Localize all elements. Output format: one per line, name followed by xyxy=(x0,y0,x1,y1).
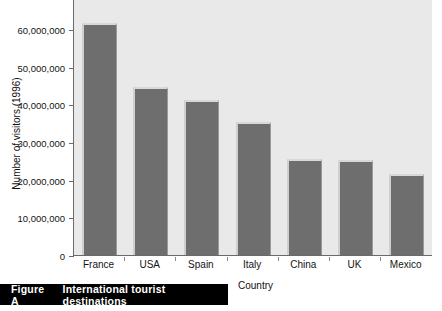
y-tick-label-10000000: 10,000,000 xyxy=(8,213,65,224)
y-tick-mark-40000000 xyxy=(69,105,74,106)
y-tick-label-60000000: 60,000,000 xyxy=(8,25,65,36)
figure-caption-text: International tourist destinations xyxy=(63,283,228,307)
bar-spain xyxy=(184,100,219,255)
bar-italy xyxy=(236,122,271,255)
figure-caption-bar: Figure A International tourist destinati… xyxy=(0,284,228,305)
bar-mexico xyxy=(389,174,424,255)
y-tick-label-0: 0 xyxy=(8,251,65,262)
bar-france xyxy=(82,23,117,255)
bars-container xyxy=(74,0,432,255)
y-tick-mark-0 xyxy=(69,256,74,257)
figure-caption-number: Figure A xyxy=(11,283,54,307)
x-axis-title: Country xyxy=(238,280,273,291)
x-tick-label-mexico: Mexico xyxy=(376,259,436,270)
y-tick-mark-50000000 xyxy=(69,68,74,69)
chart-plot-area xyxy=(73,0,432,256)
bar-china xyxy=(287,159,322,255)
figure-container: 010,000,00020,000,00030,000,00040,000,00… xyxy=(0,0,442,311)
y-tick-mark-10000000 xyxy=(69,218,74,219)
y-tick-mark-30000000 xyxy=(69,143,74,144)
y-axis-title: Number of visitors (1996) xyxy=(11,54,22,214)
y-tick-mark-20000000 xyxy=(69,181,74,182)
y-tick-mark-60000000 xyxy=(69,30,74,31)
bar-usa xyxy=(133,87,168,255)
bar-uk xyxy=(338,160,373,255)
